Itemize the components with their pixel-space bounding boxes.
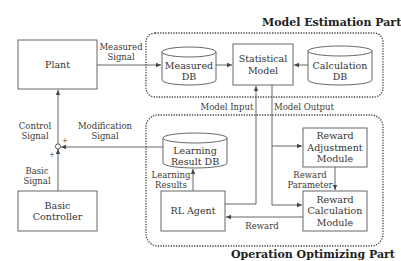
statistical-model-label: StatisticalModel (233, 44, 293, 85)
operation-optimizing-title: Operation Optimizing Part (231, 248, 395, 261)
basic-controller-label: BasicController (18, 191, 97, 231)
model-input-label: Model Input (200, 102, 254, 112)
plant-label: Plant (18, 40, 97, 89)
junction-plus-left: + (49, 151, 55, 159)
measured-signal-label: MeasuredSignal (98, 42, 144, 62)
model-output-label: Model Output (274, 102, 334, 112)
rl-agent-label: RL Agent (161, 191, 225, 231)
modification-signal-label: ModificationSignal (77, 121, 133, 141)
calculation-db-label: CalculationDB (308, 58, 372, 84)
learning-result-db-label: LearningResult DB (163, 144, 227, 168)
learning-results-label: LearningResults (150, 170, 192, 190)
basic-signal-label: BasicSignal (20, 166, 54, 186)
model-estimation-title: Model Estimation Part (262, 16, 401, 29)
reward-adjustment-label: RewardAdjustmentModule (303, 128, 367, 167)
reward-calculation-label: RewardCalculationModule (303, 191, 367, 231)
junction-plus-top: + (62, 137, 68, 145)
summing-junction (55, 144, 60, 149)
control-signal-label: ControlSignal (16, 121, 54, 141)
reward-parameter-label: RewardParameter (284, 170, 336, 190)
reward-label: Reward (242, 221, 282, 231)
measured-db-label: MeasuredDB (162, 58, 216, 84)
